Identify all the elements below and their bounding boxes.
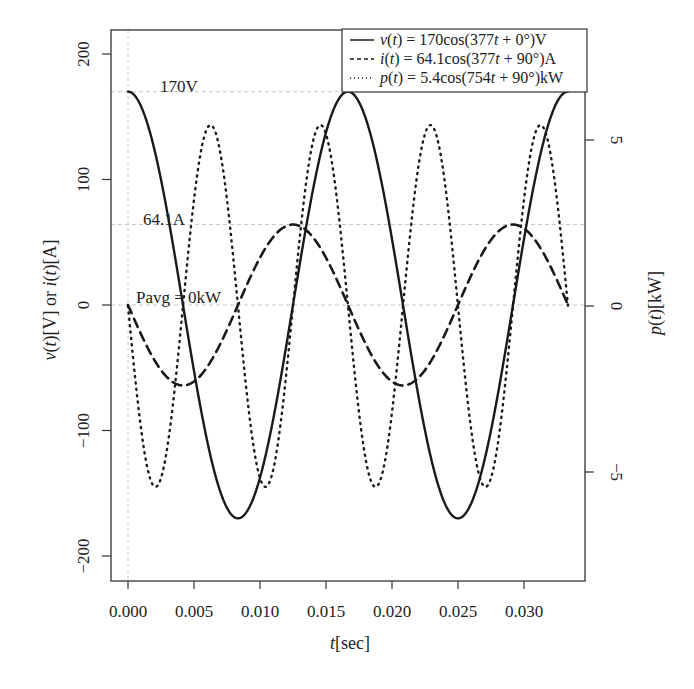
y-axis-right: 50−5 (585, 136, 626, 481)
x-tick-label: 0.010 (241, 602, 279, 621)
y-left-tick-label: 0 (74, 301, 93, 310)
y-axis-right-title: p(t)[kW] (645, 271, 666, 337)
y-right-tick-label: 5 (607, 136, 626, 145)
chart-figure: 0.0000.0050.0100.0150.0200.0250.030 2001… (0, 0, 694, 689)
x-axis-title: t[sec] (330, 633, 370, 653)
x-tick-label: 0.015 (307, 602, 345, 621)
avg-power-annotation: Pavg = 0kW (136, 288, 222, 307)
y-left-tick-label: −200 (74, 538, 93, 573)
legend: v(t) = 170cos(377t + 0°)Vi(t) = 64.1cos(… (342, 29, 587, 92)
y-left-tick-label: 200 (74, 41, 93, 67)
y-left-tick-label: −100 (74, 413, 93, 448)
x-tick-label: 0.020 (373, 602, 411, 621)
y-axis-left-title: v(t)[V] or i(t)[A] (40, 239, 61, 360)
x-axis: 0.0000.0050.0100.0150.0200.0250.030 (109, 581, 543, 621)
y-axis-left: 2001000−100−200 (74, 41, 111, 573)
legend-item-label: i(t) = 64.1cos(377t + 90°)A (380, 50, 556, 68)
current-peak-annotation: 64.1A (143, 210, 186, 229)
x-tick-label: 0.025 (439, 602, 477, 621)
y-right-tick-label: 0 (607, 302, 626, 311)
x-tick-label: 0.005 (175, 602, 213, 621)
y-right-tick-label: −5 (607, 463, 626, 481)
x-tick-label: 0.030 (505, 602, 543, 621)
y-left-tick-label: 100 (74, 167, 93, 193)
legend-item-label: p(t) = 5.4cos(754t + 90°)kW (379, 69, 564, 87)
x-tick-label: 0.000 (109, 602, 147, 621)
legend-item-label: v(t) = 170cos(377t + 0°)V (380, 31, 547, 49)
voltage-peak-annotation: 170V (160, 77, 199, 96)
